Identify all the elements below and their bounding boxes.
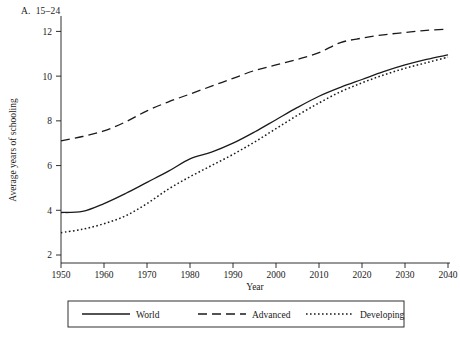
x-tick-label: 1950 bbox=[52, 270, 71, 280]
legend: WorldAdvancedDeveloping bbox=[68, 301, 405, 327]
line-chart: 24681012 1950196019701980199020002010202… bbox=[0, 0, 460, 342]
x-tick-label: 2020 bbox=[353, 270, 372, 280]
x-axis-ticks: 1950196019701980199020002010202020302040 bbox=[52, 263, 458, 280]
panel-title-text: 15–24 bbox=[36, 6, 61, 16]
y-axis-ticks: 24681012 bbox=[43, 27, 62, 261]
y-tick-label: 12 bbox=[43, 27, 53, 37]
series-line-developing bbox=[61, 57, 448, 233]
x-tick-label: 2010 bbox=[310, 270, 329, 280]
y-tick-label: 2 bbox=[47, 250, 52, 260]
legend-label-developing: Developing bbox=[360, 310, 405, 320]
axes bbox=[61, 16, 450, 263]
x-tick-label: 2040 bbox=[439, 270, 458, 280]
legend-label-advanced: Advanced bbox=[252, 310, 291, 320]
panel-title-letter: A. bbox=[21, 6, 31, 16]
legend-label-world: World bbox=[136, 310, 160, 320]
x-tick-label: 1990 bbox=[224, 270, 243, 280]
x-axis-title: Year bbox=[246, 282, 264, 292]
x-tick-label: 1960 bbox=[95, 270, 114, 280]
series-line-advanced bbox=[61, 29, 448, 141]
page-title: A.15–24 bbox=[21, 6, 60, 16]
y-tick-label: 4 bbox=[47, 206, 52, 216]
y-tick-label: 10 bbox=[43, 72, 53, 82]
series-line-world bbox=[61, 55, 448, 213]
x-tick-label: 2030 bbox=[396, 270, 415, 280]
x-tick-label: 2000 bbox=[267, 270, 286, 280]
x-tick-label: 1970 bbox=[138, 270, 157, 280]
figure-panel: A.15–24 24681012 19501960197019801990200… bbox=[0, 0, 460, 342]
x-tick-label: 1980 bbox=[181, 270, 200, 280]
data-series bbox=[61, 29, 448, 232]
y-tick-label: 8 bbox=[47, 116, 52, 126]
y-tick-label: 6 bbox=[47, 161, 52, 171]
y-axis-title: Average years of schooling bbox=[8, 98, 18, 202]
